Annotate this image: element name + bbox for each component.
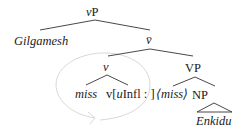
syntax-tree-diagram: vP Gilgamesh v̄ v VP miss v[uInfl : ] ⟨m… xyxy=(0,0,245,135)
node-vP: vP xyxy=(86,5,99,19)
np-triangle xyxy=(197,103,232,112)
node-gilgamesh: Gilgamesh xyxy=(14,34,68,48)
leaf-enkidu: Enkidu xyxy=(196,114,231,128)
leaf-miss-trace: ⟨miss⟩ xyxy=(156,87,188,101)
node-VP: VP xyxy=(185,61,201,75)
node-v-bar: v̄ xyxy=(146,33,152,47)
leaf-miss: miss xyxy=(75,87,97,101)
node-NP: NP xyxy=(192,88,208,102)
leaf-v-uinfl: v[uInfl : ] xyxy=(106,87,155,101)
node-v: v xyxy=(103,60,109,74)
